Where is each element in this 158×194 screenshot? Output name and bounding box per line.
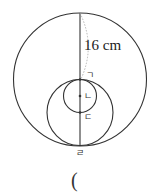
- length-label: 16 cm: [84, 38, 121, 53]
- point-label-rieul: ㄹ: [76, 149, 84, 158]
- answer-parenthesis: (: [71, 170, 78, 190]
- point-small-center: [79, 95, 82, 98]
- point-label-digeut: ㄷ: [84, 113, 92, 122]
- point-label-giyeok: ㄱ: [86, 71, 94, 80]
- point-label-nieun: ㄴ: [84, 92, 92, 101]
- point-small-bottom: [79, 111, 82, 114]
- point-top-tangent: [79, 78, 82, 81]
- circle-diagram: [0, 0, 158, 194]
